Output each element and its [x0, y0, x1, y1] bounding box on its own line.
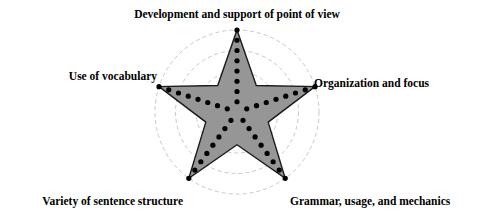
- axis-dot-2-5: [265, 151, 270, 156]
- axis-label-development: Development and support of point of view: [134, 8, 340, 21]
- axis-dot-1-6: [293, 90, 298, 95]
- axis-dot-4-1: [225, 106, 230, 111]
- axis-dot-2-3: [252, 134, 257, 139]
- axis-dot-3-2: [222, 126, 227, 131]
- axis-dot-3-1: [228, 118, 233, 123]
- axis-label-organization: Organization and focus: [314, 77, 430, 90]
- axis-dot-3-7: [192, 167, 197, 172]
- axis-dot-1-7: [303, 87, 308, 92]
- axis-dot-4-2: [215, 103, 220, 108]
- axis-dot-0-5: [234, 58, 239, 63]
- axis-dot-3-6: [198, 159, 203, 164]
- axis-dot-0-6: [234, 48, 239, 53]
- axis-dot-3-3: [216, 134, 221, 139]
- axis-dot-1-4: [273, 97, 278, 102]
- axis-dot-4-5: [186, 94, 191, 99]
- axis-dot-4-4: [195, 97, 200, 102]
- axis-dot-0-1: [234, 99, 239, 104]
- axis-dot-3-5: [204, 151, 209, 156]
- axis-dot-4-6: [176, 90, 181, 95]
- axis-dot-1-2: [254, 103, 259, 108]
- axis-dot-2-8: [283, 176, 288, 181]
- axis-dot-3-4: [210, 143, 215, 148]
- axis-dot-2-6: [271, 159, 276, 164]
- axis-dot-0-7: [234, 38, 239, 43]
- axis-dot-1-5: [283, 94, 288, 99]
- axis-dot-4-7: [166, 87, 171, 92]
- axis-dot-4-8: [156, 84, 161, 89]
- axis-dot-0-3: [234, 79, 239, 84]
- axis-dot-2-4: [258, 143, 263, 148]
- axis-dot-0-2: [234, 89, 239, 94]
- axis-dot-2-7: [277, 167, 282, 172]
- axis-dot-2-1: [240, 118, 245, 123]
- radar-chart-svg: Development and support of point of view…: [0, 0, 479, 218]
- axis-dot-1-1: [244, 106, 249, 111]
- axis-dot-1-3: [264, 100, 269, 105]
- axis-dot-2-2: [246, 126, 251, 131]
- radar-chart-container: Development and support of point of view…: [0, 0, 479, 218]
- axis-dot-0-8: [234, 27, 239, 32]
- axis-label-variety: Variety of sentence structure: [42, 195, 183, 208]
- axis-dot-0-4: [234, 68, 239, 73]
- axis-dot-3-8: [186, 176, 191, 181]
- axis-dot-4-3: [205, 100, 210, 105]
- axis-label-grammar: Grammar, usage, and mechanics: [290, 195, 451, 208]
- axis-label-vocabulary: Use of vocabulary: [69, 70, 157, 83]
